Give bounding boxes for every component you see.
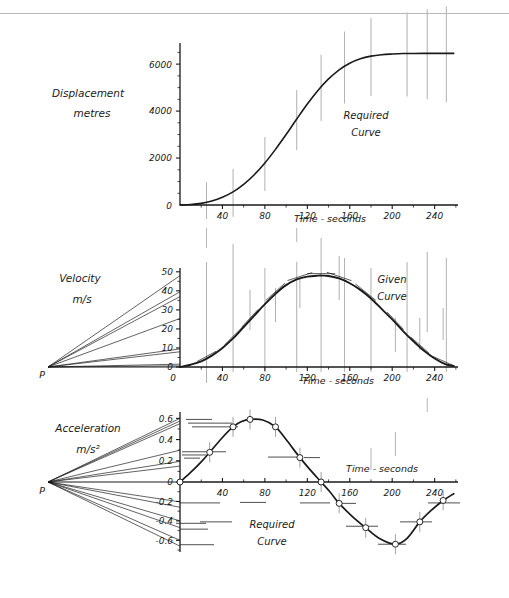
y-tick-label: 6000: [149, 60, 172, 70]
kinematics-figure: 20004000600004080120160200240Displacemen…: [0, 0, 509, 598]
acceleration-data-point: [177, 479, 183, 485]
acceleration-pole-label: P: [39, 485, 45, 496]
velocity-x-axis-title: Time - seconds: [302, 375, 374, 386]
x-tick-label: 200: [384, 488, 401, 498]
acceleration-data-point: [247, 416, 253, 422]
y-tick-label: 0: [167, 362, 173, 372]
displacement-curve: [180, 53, 454, 205]
displacement-curve-label-line1: Required: [343, 110, 389, 121]
displacement-axis-title-line1: Displacement: [52, 87, 125, 99]
pole-ray-velocity: [48, 297, 180, 367]
acceleration-axis-title-line1: Acceleration: [54, 422, 120, 434]
y-tick-label: 0: [167, 477, 173, 487]
displacement-curve-label-line2: Curve: [351, 127, 381, 138]
acceleration-data-point: [336, 500, 342, 506]
velocity-curve: [180, 276, 454, 367]
acceleration-x-axis-title: Time - seconds: [346, 463, 418, 474]
x-tick-label: 240: [426, 488, 443, 498]
origin-label: 0: [170, 373, 176, 383]
y-tick-label: 4000: [149, 106, 172, 116]
y-tick-label: -0.6: [155, 536, 173, 546]
acceleration-data-point: [207, 449, 213, 455]
acceleration-curve-label-line1: Required: [249, 519, 295, 530]
x-tick-label: 120: [299, 488, 316, 498]
x-tick-label: 200: [384, 373, 401, 383]
x-tick-label: 240: [426, 211, 443, 221]
x-tick-label: 240: [426, 373, 443, 383]
acceleration-data-point: [392, 541, 398, 547]
acceleration-data-point: [318, 479, 324, 485]
acceleration-data-point: [230, 424, 236, 430]
top-rule-divider: [0, 13, 509, 14]
x-tick-label: 40: [217, 211, 229, 221]
origin-label: 0: [166, 201, 172, 211]
acceleration-data-point: [363, 525, 369, 531]
x-tick-label: 40: [217, 488, 229, 498]
pole-ray-velocity: [48, 276, 180, 367]
velocity-axis-title-line2: m/s: [72, 293, 92, 305]
figure-root: 20004000600004080120160200240Displacemen…: [0, 0, 509, 598]
pole-ray-acceleration-negative: [48, 482, 180, 540]
acceleration-axis-title-line2: m/s²: [76, 443, 100, 455]
x-tick-label: 160: [341, 488, 358, 498]
acceleration-data-point: [272, 424, 278, 430]
y-tick-label: 20: [162, 324, 174, 334]
pole-ray-velocity: [48, 292, 180, 367]
displacement-axis-title-line2: metres: [73, 107, 111, 119]
velocity-curve-label-line2: Curve: [377, 291, 407, 302]
pole-ray-acceleration-positive: [48, 461, 180, 482]
pole-ray-acceleration-negative: [48, 482, 180, 507]
acceleration-data-point: [440, 497, 446, 503]
velocity-axis-title-line1: Velocity: [59, 272, 101, 284]
y-tick-label: 0.4: [159, 435, 174, 445]
y-tick-label: 30: [162, 305, 174, 315]
x-tick-label: 80: [259, 373, 271, 383]
y-tick-label: 0.6: [159, 414, 174, 424]
pole-ray-acceleration-positive: [48, 466, 180, 482]
acceleration-curve-label-line2: Curve: [257, 536, 287, 547]
x-tick-label: 40: [217, 373, 229, 383]
x-tick-label: 80: [259, 488, 271, 498]
velocity-curve-label-line1: Given: [378, 274, 407, 285]
acceleration-data-point: [297, 455, 303, 461]
tangent-segment: [356, 284, 376, 300]
y-tick-label: 2000: [149, 153, 172, 163]
velocity-pole-label: P: [39, 369, 45, 380]
y-tick-label: 50: [162, 267, 174, 277]
x-tick-label: 80: [259, 211, 271, 221]
y-tick-label: 10: [162, 343, 174, 353]
x-tick-label: 200: [384, 211, 401, 221]
displacement-x-axis-title: Time - seconds: [294, 213, 366, 224]
acceleration-data-point: [417, 519, 423, 525]
